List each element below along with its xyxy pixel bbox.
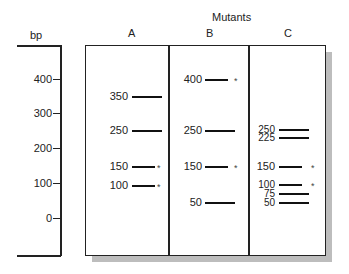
mutation-star-marker: * [234,77,238,86]
gel-band [205,79,228,81]
gel-band [279,129,309,131]
mutation-star-marker: * [311,182,315,191]
band-size-label: 150 [184,161,202,172]
lane-label: C [284,28,292,39]
gel-shadow-right [326,52,332,262]
ladder-axis [60,45,62,256]
ladder-tick-label: 400 [34,74,52,85]
band-size-label: 350 [110,91,128,102]
ladder-tick-label: 100 [34,178,52,189]
lane-divider [248,45,250,256]
lane-divider [168,45,170,256]
ladder-tick-label: 200 [34,143,52,154]
band-size-label: 400 [184,74,202,85]
ladder-tick-label: 0 [46,213,52,224]
lane-label: A [128,28,135,39]
gel-band [132,185,155,187]
gel-band [132,166,155,168]
ladder-top-line [17,45,61,47]
band-size-label: 100 [110,180,128,191]
ladder-tick-mark [53,113,61,114]
band-size-label: 250 [184,125,202,136]
ladder-tick-mark [53,148,61,149]
band-size-label: 50 [190,197,202,208]
title-mutants: Mutants [212,12,251,23]
gel-band [205,130,235,132]
gel-shadow-bottom [92,256,332,262]
gel-band [279,184,302,186]
ladder-tick-mark [53,218,61,219]
mutation-star-marker: * [234,164,238,173]
gel-band [279,193,309,195]
lane-label: B [206,28,213,39]
band-size-label: 150 [110,161,128,172]
gel-band [279,202,309,204]
ladder-bottom-line [17,255,61,257]
ladder-tick-mark [53,183,61,184]
band-size-label: 250 [110,125,128,136]
mutation-star-marker: * [157,164,161,173]
ladder-label: bp [30,30,42,41]
gel-band [132,96,162,98]
band-size-label: 225 [258,133,275,143]
ladder-tick-label: 300 [34,108,52,119]
mutation-star-marker: * [311,164,315,173]
gel-box [85,45,326,256]
gel-band [279,166,302,168]
band-size-label: 50 [264,198,275,208]
gel-band [205,166,228,168]
band-size-label: 150 [257,161,275,172]
gel-band [279,137,309,139]
gel-band [205,202,235,204]
mutation-star-marker: * [157,183,161,192]
gel-band [132,130,162,132]
ladder-tick-mark [53,79,61,80]
